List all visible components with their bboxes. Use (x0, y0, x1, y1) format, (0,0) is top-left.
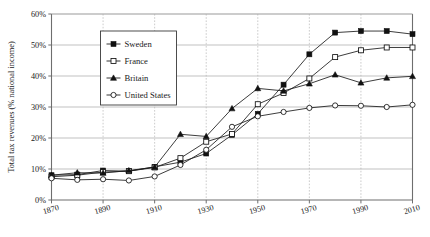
y-tick-label: 30% (31, 103, 46, 112)
data-point (307, 105, 312, 110)
y-axis-ticks: 0%10%20%30%40%50%60% (31, 10, 52, 205)
x-tick-label: 1910 (145, 203, 163, 216)
data-point (204, 139, 209, 144)
x-tick-label: 1930 (196, 203, 214, 216)
x-axis-ticks: 18701890191019301950197019902010 (42, 200, 421, 216)
data-point (410, 32, 415, 37)
legend-marker-open-square (111, 59, 116, 64)
data-point (358, 103, 363, 108)
legend-label: Sweden (125, 39, 153, 49)
data-point (333, 55, 338, 60)
data-point (178, 156, 183, 161)
data-point (384, 29, 389, 34)
legend-label: Britain (125, 73, 150, 83)
chart-legend: SwedenFranceBritainUnited States (101, 31, 177, 105)
data-point (230, 131, 235, 136)
x-tick-label: 1990 (351, 203, 369, 216)
data-point (410, 102, 415, 107)
data-point (358, 48, 363, 53)
legend-marker-open-circle (111, 92, 116, 97)
legend-label: United States (125, 90, 172, 100)
data-point (333, 103, 338, 108)
legend-label: France (125, 56, 149, 66)
data-point (178, 162, 183, 167)
data-point (100, 177, 105, 182)
data-point (152, 174, 157, 179)
data-point (75, 177, 80, 182)
data-point (255, 85, 261, 90)
data-point (358, 29, 363, 34)
data-point (255, 114, 260, 119)
data-point (307, 52, 312, 57)
x-tick-label: 2010 (403, 203, 421, 216)
data-point (410, 45, 415, 50)
data-point (281, 82, 286, 87)
y-tick-label: 50% (31, 41, 46, 50)
chart-container: 0%10%20%30%40%50%60% 1870189019101930195… (0, 0, 430, 237)
y-tick-label: 20% (31, 134, 46, 143)
data-point (332, 72, 338, 77)
data-point (333, 30, 338, 35)
data-point (255, 102, 260, 107)
legend-marker-filled-square (111, 42, 116, 47)
y-tick-label: 0% (35, 196, 46, 205)
x-tick-label: 1950 (248, 203, 266, 216)
y-axis-title: Total tax revenues (% national income) (7, 41, 16, 173)
x-tick-label: 1970 (300, 203, 318, 216)
y-tick-label: 60% (31, 10, 46, 19)
data-point (229, 124, 234, 129)
data-point (177, 131, 183, 136)
data-point (384, 104, 389, 109)
y-tick-label: 40% (31, 72, 46, 81)
data-point (229, 105, 235, 110)
tax-revenue-line-chart: 0%10%20%30%40%50%60% 1870189019101930195… (0, 0, 430, 237)
y-tick-label: 10% (31, 165, 46, 174)
data-point (204, 147, 209, 152)
data-point (281, 109, 286, 114)
data-point (126, 178, 131, 183)
x-tick-label: 1890 (93, 203, 111, 216)
data-point (49, 176, 54, 181)
data-point (384, 45, 389, 50)
